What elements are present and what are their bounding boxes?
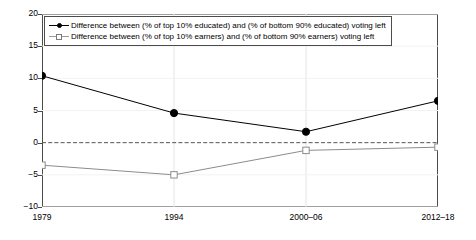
chart-figure: 20151050−5−10 Difference between (% of t… [0,0,476,240]
data-point-open-square [171,172,177,178]
y-tick-mark [38,207,42,208]
legend-item-earners: Difference between (% of top 10% earners… [49,31,386,42]
y-tick-label: −5 [4,170,38,179]
y-tick-label: 0 [4,138,38,147]
y-tick-mark [38,78,42,79]
open-square-marker-icon [49,31,69,42]
y-axis: 20151050−5−10 [0,0,38,240]
y-tick-mark [38,175,42,176]
y-tick-mark [38,46,42,47]
y-tick-mark [38,14,42,15]
data-point-open-square [435,144,438,150]
y-tick-mark [38,143,42,144]
y-tick-label: −10 [4,202,38,211]
y-tick-label: 5 [4,106,38,115]
data-point-open-square [303,147,309,153]
y-tick-label: 20 [4,9,38,18]
x-tick-label: 1994 [165,212,184,222]
data-point-filled-circle [302,128,309,135]
data-point-open-square [42,162,45,168]
legend-label-earners: Difference between (% of top 10% earners… [69,32,374,42]
data-point-filled-circle [42,72,46,79]
y-tick-label: 15 [4,41,38,50]
data-point-filled-circle [434,97,438,104]
legend-label-educated: Difference between (% of top 10% educate… [69,21,386,31]
data-point-filled-circle [170,109,177,116]
series-line [42,76,438,132]
x-tick-label: 2000–06 [289,212,322,222]
x-tick-label: 2012–18 [421,212,454,222]
filled-circle-marker-icon [49,20,69,31]
y-tick-label: 10 [4,73,38,82]
series-line [42,147,438,175]
x-tick-label: 1979 [33,212,52,222]
chart-legend: Difference between (% of top 10% educate… [44,16,392,46]
legend-item-educated: Difference between (% of top 10% educate… [49,20,386,31]
y-tick-mark [38,111,42,112]
